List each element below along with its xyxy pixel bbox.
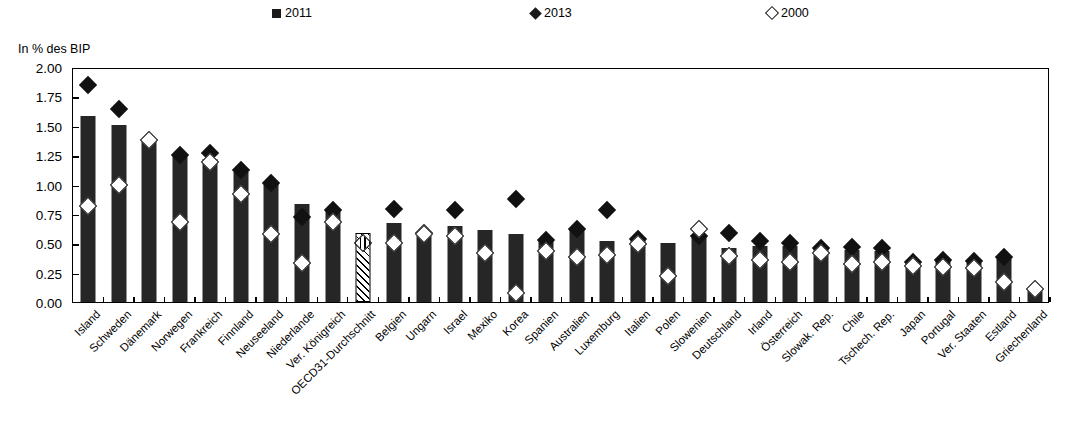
chart-category (317, 69, 348, 302)
y-tick-mark (72, 156, 79, 158)
chart-category (500, 69, 531, 302)
y-tick-label: 0.00 (36, 296, 62, 311)
x-tick-label: Israel (441, 308, 469, 336)
x-tick-label: Ungarn (403, 308, 438, 343)
chart-category (562, 69, 593, 302)
chart-category (897, 69, 928, 302)
y-tick-label: 2.00 (36, 61, 62, 76)
chart-category (623, 69, 654, 302)
marker-2013 (384, 200, 402, 218)
x-tick-label: Chile (839, 308, 866, 335)
y-tick-mark (72, 244, 79, 246)
marker-2013 (507, 189, 525, 207)
y-tick-label: 1.50 (36, 119, 62, 134)
chart-category (653, 69, 684, 302)
x-tick-label-text: Mexiko (465, 308, 499, 342)
chart-category (592, 69, 623, 302)
chart-category (348, 69, 379, 302)
chart-category (165, 69, 196, 302)
bar-2011 (111, 125, 126, 302)
chart-category (775, 69, 806, 302)
y-tick-label: 1.00 (36, 178, 62, 193)
chart-category (989, 69, 1020, 302)
x-tick-label-text: Ungarn (403, 308, 438, 343)
chart-category (409, 69, 440, 302)
chart-category (104, 69, 135, 302)
x-tick-label-text: Italien (622, 308, 652, 338)
x-axis-labels: IslandSchwedenDänemarkNorwegenFrankreich… (72, 306, 1049, 426)
y-tick-label: 0.25 (36, 266, 62, 281)
x-tick-label-text: Tschech. Rep. (837, 308, 897, 368)
x-tick-label: Italien (622, 308, 652, 338)
x-tick-label: Tschech. Rep. (837, 308, 897, 368)
bar-2011 (691, 236, 706, 302)
chart-category (958, 69, 989, 302)
plot-area-wrapper: 0.000.250.500.751.001.251.501.752.00 Isl… (0, 0, 1067, 432)
y-tick-mark (72, 97, 79, 99)
chart-category (1019, 69, 1050, 302)
y-tick-mark (72, 127, 79, 129)
x-tick-label-text: Belgien (372, 308, 408, 344)
chart-category (928, 69, 959, 302)
marker-2013 (445, 201, 463, 219)
chart-category (684, 69, 715, 302)
y-tick-mark (72, 186, 79, 188)
x-tick-mark (1049, 297, 1050, 302)
chart-category (714, 69, 745, 302)
marker-2013 (79, 75, 97, 93)
y-tick-label: 1.75 (36, 90, 62, 105)
marker-2013 (720, 223, 738, 241)
bar-2011 (142, 141, 157, 302)
x-tick-label: Mexiko (465, 308, 499, 342)
bar-2011 (203, 159, 218, 302)
chart-root: 2011 2013 2000 In % des BIP 0.000.250.50… (0, 0, 1067, 432)
y-axis-labels: 0.000.250.500.751.001.251.501.752.00 (0, 60, 66, 312)
y-tick-label: 0.50 (36, 237, 62, 252)
y-tick-mark (72, 274, 79, 276)
chart-category (256, 69, 287, 302)
plot-frame (72, 68, 1049, 303)
bar-series-area (73, 69, 1048, 302)
chart-category (867, 69, 898, 302)
chart-category (226, 69, 257, 302)
chart-category (439, 69, 470, 302)
marker-2013 (110, 100, 128, 118)
x-tick-label-text: Chile (839, 308, 866, 335)
marker-2013 (598, 201, 616, 219)
chart-category (195, 69, 226, 302)
chart-category (836, 69, 867, 302)
chart-category (470, 69, 501, 302)
y-tick-label: 1.25 (36, 149, 62, 164)
chart-category (378, 69, 409, 302)
chart-category (134, 69, 165, 302)
y-tick-mark (72, 215, 79, 217)
chart-category (531, 69, 562, 302)
x-tick-label: Belgien (372, 308, 408, 344)
x-tick-label-text: Israel (441, 308, 469, 336)
bar-2011 (478, 230, 493, 302)
chart-category (745, 69, 776, 302)
chart-category (287, 69, 318, 302)
y-tick-label: 0.75 (36, 207, 62, 222)
chart-category (806, 69, 837, 302)
